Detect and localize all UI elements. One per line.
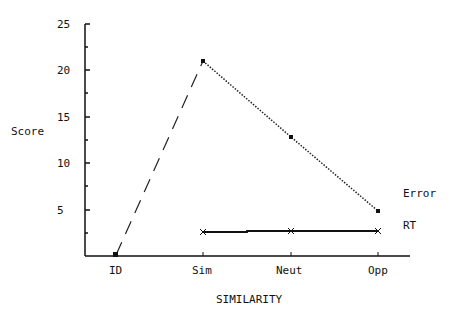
legend-error: Error [403,187,436,200]
xtick-label: Opp [368,264,388,277]
error-marker-neut [289,135,293,139]
error-marker-id [113,252,118,257]
ytick-label: 15 [57,111,70,124]
xtick-label: ID [109,264,122,277]
ytick-label: 5 [57,204,64,217]
ytick-label: 25 [57,18,70,31]
legend-rt: RT [403,219,416,232]
x-axis-label: SIMILARITY [216,293,282,306]
y-axis-label: Score [11,125,44,138]
error-marker-opp [376,209,380,213]
xtick-label: Neut [276,264,303,277]
error-line-dashed [116,61,203,255]
error-marker-sim [201,59,205,63]
ytick-label: 10 [57,157,70,170]
ytick-label: 20 [57,64,70,77]
xtick-label: Sim [192,264,212,277]
